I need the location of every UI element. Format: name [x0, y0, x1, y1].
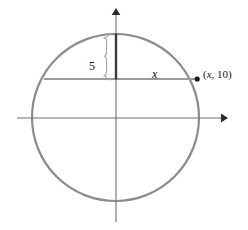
arrow-right-icon	[221, 114, 228, 123]
chord-length-label: x	[152, 68, 157, 80]
circle-diagram-figure: 5 x (x, 10)	[0, 0, 248, 230]
point-coordinate-label: (x, 10)	[203, 69, 232, 80]
arrow-up-icon	[112, 8, 121, 15]
point-dot-icon	[195, 76, 200, 81]
brace-icon	[104, 34, 111, 80]
radius-length-label: 5	[89, 60, 95, 72]
diagram-canvas	[0, 0, 248, 230]
point-label-rest: , 10)	[212, 68, 232, 80]
